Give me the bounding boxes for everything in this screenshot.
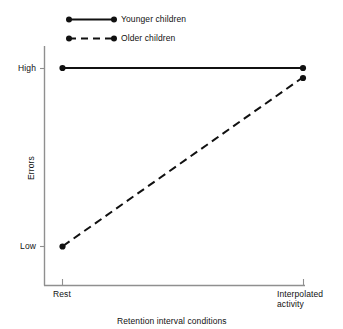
- x-axis-title: Retention interval conditions: [117, 316, 227, 326]
- axis-lines: [44, 46, 305, 286]
- series-older-point-rest: [59, 243, 65, 249]
- series-younger-children: [59, 65, 306, 71]
- x-tick-label-interpolated-line1: Interpolated: [277, 289, 323, 299]
- x-tick-label-rest: Rest: [53, 289, 71, 299]
- series-older-children: [59, 75, 306, 250]
- series-older-line: [63, 78, 302, 246]
- legend-swatches: [66, 17, 117, 42]
- legend-swatch-solid-dot-left: [66, 17, 72, 23]
- legend-swatch-solid-dot-right: [111, 17, 117, 23]
- y-tick-label-low: Low: [0, 241, 36, 251]
- series-younger-point-interpolated: [300, 65, 306, 71]
- legend-swatch-dashed-dot-left: [66, 36, 72, 42]
- y-tick-label-high: High: [0, 63, 36, 73]
- legend-swatch-dashed-dot-right: [111, 36, 117, 42]
- y-axis-title: Errors: [26, 156, 36, 180]
- series-younger-point-rest: [59, 65, 65, 71]
- x-tick-label-interpolated-line2: activity: [277, 299, 304, 309]
- chart-figure: Younger children Older children High Low…: [0, 0, 343, 329]
- axis-ticks: [40, 69, 304, 286]
- chart-canvas: [0, 0, 343, 329]
- legend-label-younger-children: Younger children: [121, 14, 186, 24]
- series-older-point-interpolated: [300, 75, 306, 81]
- legend-label-older-children: Older children: [121, 33, 175, 43]
